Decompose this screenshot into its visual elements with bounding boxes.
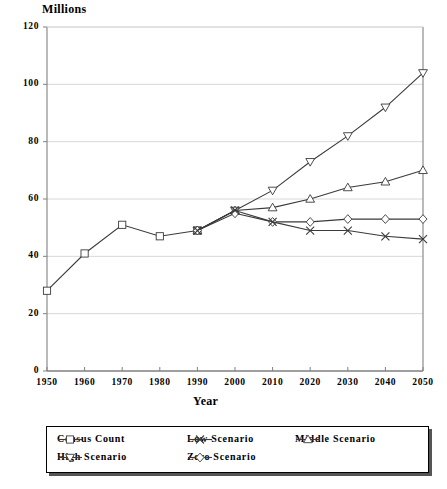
x-tick-label-1950: 1950 <box>27 377 67 387</box>
cross-marker-icon <box>187 433 213 446</box>
x-tick-label-1960: 1960 <box>65 377 105 387</box>
x-tick-label-2040: 2040 <box>365 377 405 387</box>
x-tick-label-2030: 2030 <box>328 377 368 387</box>
y-tick-label-120: 120 <box>9 21 39 31</box>
series-high-scenario <box>193 70 427 235</box>
chart-legend: Census CountLow ScenarioMiddle ScenarioH… <box>46 426 429 473</box>
x-tick-label-2010: 2010 <box>253 377 293 387</box>
x-tick-label-1970: 1970 <box>102 377 142 387</box>
x-axis-title: Year <box>193 394 218 409</box>
triangle-up-marker-icon <box>295 433 321 446</box>
legend-item-census-count[interactable]: Census Count <box>57 433 125 444</box>
diamond-marker-icon <box>187 451 213 464</box>
x-tick-label-1990: 1990 <box>177 377 217 387</box>
x-tick-label-2020: 2020 <box>290 377 330 387</box>
y-tick-label-40: 40 <box>9 250 39 260</box>
y-tick-label-80: 80 <box>9 136 39 146</box>
legend-item-low-scenario[interactable]: Low Scenario <box>187 433 254 444</box>
legend-item-zero-scenario[interactable]: Zero Scenario <box>187 451 256 462</box>
y-tick-label-100: 100 <box>9 78 39 88</box>
square-marker-icon <box>57 433 83 446</box>
legend-item-high-scenario[interactable]: High Scenario <box>57 451 127 462</box>
x-tick-label-1980: 1980 <box>140 377 180 387</box>
x-tick-label-2050: 2050 <box>403 377 443 387</box>
y-tick-label-20: 20 <box>9 308 39 318</box>
triangle-down-marker-icon <box>57 451 83 464</box>
plot-area <box>0 0 447 420</box>
x-tick-label-2000: 2000 <box>215 377 255 387</box>
series-census-count <box>43 221 201 294</box>
legend-item-middle-scenario[interactable]: Middle Scenario <box>295 433 376 444</box>
y-tick-label-0: 0 <box>9 365 39 375</box>
population-projection-chart: Millions Year Census CountLow ScenarioMi… <box>0 0 447 489</box>
y-tick-label-60: 60 <box>9 193 39 203</box>
